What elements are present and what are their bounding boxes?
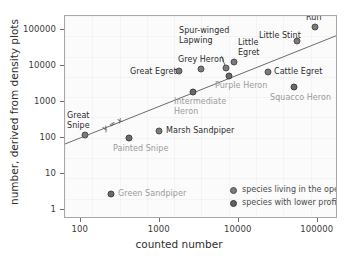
x-tick-100 [80, 218, 81, 222]
x-tick-label-100000: 100000 [300, 224, 333, 234]
x-tick-1000 [159, 218, 160, 222]
y-tick-1 [60, 209, 64, 210]
data-point-ruff [312, 24, 319, 31]
y-tick-label-10000: 10000 [28, 60, 56, 70]
x-tick-10000 [238, 218, 239, 222]
data-label-marsh-sandpiper: Marsh Sandpiper [166, 126, 234, 136]
data-label-intermediate-heron: Intermediate Heron [174, 97, 226, 116]
data-label-ruff: Ruff [306, 15, 322, 23]
data-point-little-egret [231, 59, 238, 66]
data-label-purple-heron: Purple Heron [215, 81, 267, 91]
y-tick-label-1: 1 [50, 204, 56, 214]
y-axis-label: number, derived from density plots [8, 2, 20, 222]
plot-area: y = x species living in the open species… [64, 15, 337, 218]
data-label-little-egret: Little Egret [238, 38, 260, 57]
data-point-cattle-egret [265, 69, 272, 76]
x-tick-100000 [317, 218, 318, 222]
data-label-spur-winged-lapwing: Spur-winged Lapwing [179, 26, 229, 45]
data-point-great-snipe [82, 132, 89, 139]
y-tick-label-100: 100 [39, 132, 56, 142]
data-label-little-stint: Little Stint [259, 31, 301, 41]
data-label-green-sandpiper: Green Sandpiper [118, 189, 186, 199]
y-tick-label-100000: 100000 [23, 24, 56, 34]
legend-label-low: species with lower profile [242, 198, 337, 207]
data-point-green-sandpiper [108, 191, 115, 198]
data-point-purple-heron [226, 73, 233, 80]
x-tick-label-10000: 10000 [224, 224, 252, 234]
y-tick-label-1000: 1000 [34, 96, 56, 106]
data-point-spur-winged-lapwing [223, 65, 230, 72]
data-point-squacco-heron [291, 84, 298, 91]
x-tick-label-1000: 1000 [148, 224, 170, 234]
data-point-intermediate-heron [190, 89, 197, 96]
data-point-grey-heron [198, 66, 205, 73]
data-label-great-egret: Great Egret [130, 67, 177, 77]
data-label-grey-heron: Grey Heron [178, 55, 224, 65]
legend-label-open: species living in the open [242, 185, 337, 194]
scatter-plot-figure: number, derived from density plots y = x… [0, 0, 358, 262]
data-label-great-snipe: Great Snipe [67, 111, 90, 130]
y-tick-10 [60, 173, 64, 174]
data-label-cattle-egret: Cattle Egret [274, 67, 322, 77]
x-tick-label-100: 100 [72, 224, 89, 234]
y-tick-100000 [60, 29, 64, 30]
y-tick-label-10: 10 [45, 168, 56, 178]
data-point-painted-snipe [126, 135, 133, 142]
legend-marker-open-icon [230, 187, 237, 194]
y-tick-100 [60, 137, 64, 138]
x-axis-label: counted number [0, 238, 358, 250]
data-label-squacco-heron: Squacco Heron [270, 93, 331, 103]
data-point-marsh-sandpiper [156, 128, 163, 135]
data-label-painted-snipe: Painted Snipe [113, 144, 168, 154]
legend-marker-low-icon [230, 200, 237, 207]
y-tick-10000 [60, 65, 64, 66]
y-tick-1000 [60, 101, 64, 102]
